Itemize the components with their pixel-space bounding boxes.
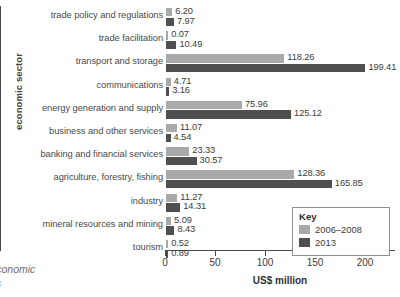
figure-caption-line-1: r economic: [0, 262, 144, 276]
bar-group: 118.26199.41: [166, 54, 400, 74]
bar-series-2013: [166, 64, 365, 72]
category-label: tourism: [133, 242, 163, 252]
bar-group: 23.3330.57: [166, 147, 400, 167]
bar-series-2006-2008: [166, 194, 177, 202]
x-axis-tick: [215, 251, 216, 256]
bar-row: business and other services11.074.54: [0, 122, 400, 145]
bar-value-label: 0.52: [171, 238, 189, 248]
category-label: mineral resources and mining: [42, 219, 163, 229]
bar-row: agriculture, forestry, fishing128.36165.…: [0, 168, 400, 191]
bar-value-label: 6.20: [175, 6, 193, 16]
legend-label-2006-2008: 2006–2008: [315, 224, 362, 235]
bar-series-2006-2008: [166, 147, 189, 155]
bar-value-label: 11.27: [180, 192, 202, 202]
bar-value-label: 8.43: [177, 224, 195, 234]
bar-value-label: 199.41: [368, 62, 396, 72]
bar-group: 0.0710.49: [166, 31, 400, 51]
bar-value-label: 0.89: [171, 248, 189, 258]
bar-value-label: 0.07: [171, 29, 189, 39]
bar-series-2006-2008: [166, 217, 171, 225]
bar-series-2013: [166, 87, 169, 95]
category-label: agriculture, forestry, fishing: [54, 172, 163, 182]
legend-item-2013: 2013: [299, 237, 384, 248]
figure-caption: r economic nds: [0, 262, 144, 290]
bar-value-label: 3.16: [172, 85, 190, 95]
bar-series-2006-2008: [166, 8, 172, 16]
bar-series-2006-2008: [166, 101, 242, 109]
bar-series-2013: [166, 226, 174, 234]
category-label: industry: [131, 196, 163, 206]
x-axis-tick-label: 200: [357, 257, 374, 268]
category-label: business and other services: [49, 126, 163, 136]
legend: Key 2006–2008 2013: [292, 207, 390, 256]
bar-series-2006-2008: [166, 78, 171, 86]
bar-value-label: 5.09: [174, 215, 192, 225]
legend-label-2013: 2013: [315, 237, 336, 248]
bar-value-label: 10.49: [179, 39, 202, 49]
legend-item-2006-2008: 2006–2008: [299, 224, 384, 235]
bar-series-2006-2008: [166, 31, 168, 39]
bar-series-2013: [166, 134, 171, 142]
bar-row: trade policy and regulations6.207.97: [0, 6, 400, 29]
x-axis-tick: [265, 251, 266, 256]
bar-series-2013: [166, 157, 197, 165]
bar-value-label: 11.07: [180, 122, 202, 132]
bar-value-label: 118.26: [287, 52, 314, 62]
bar-row: trade facilitation0.0710.49: [0, 29, 400, 52]
category-label: trade policy and regulations: [51, 10, 163, 20]
bar-value-label: 125.12: [294, 108, 322, 118]
x-axis-tick-label: 0: [162, 257, 168, 268]
legend-swatch-2013: [299, 238, 310, 248]
bar-row: transport and storage118.26199.41: [0, 52, 400, 75]
bar-value-label: 23.33: [192, 145, 215, 155]
category-label: energy generation and supply: [42, 103, 163, 113]
x-axis-tick-label: 150: [307, 257, 324, 268]
bar-group: 6.207.97: [166, 8, 400, 28]
bar-series-2013: [166, 203, 180, 211]
bar-series-2013: [166, 18, 174, 26]
category-label: transport and storage: [76, 56, 163, 66]
x-axis-tick-label: 100: [257, 257, 274, 268]
bar-series-2006-2008: [166, 54, 284, 62]
bar-value-label: 7.97: [177, 16, 195, 26]
legend-title: Key: [299, 211, 384, 222]
category-label: trade facilitation: [99, 33, 163, 43]
bar-value-label: 128.36: [297, 168, 325, 178]
bar-value-label: 4.54: [174, 132, 192, 142]
bar-group: 128.36165.85: [166, 170, 400, 190]
x-axis-title: US$ million: [165, 275, 395, 286]
bar-value-label: 30.57: [200, 155, 223, 165]
legend-swatch-2006-2008: [299, 225, 310, 235]
bar-group: 75.96125.12: [166, 100, 400, 120]
bar-row: communications4.713.16: [0, 76, 400, 99]
bar-series-2013: [166, 41, 176, 49]
bar-series-2013: [166, 180, 332, 188]
x-axis-tick-label: 50: [209, 257, 220, 268]
bar-row: banking and financial services23.3330.57: [0, 145, 400, 168]
bar-series-2006-2008: [166, 240, 168, 248]
figure-caption-line-2: nds: [0, 276, 144, 290]
category-label: banking and financial services: [40, 149, 163, 159]
bar-row: energy generation and supply75.96125.12: [0, 99, 400, 122]
x-axis-tick: [165, 251, 166, 256]
bar-value-label: 165.85: [335, 178, 363, 188]
bar-series-2013: [166, 110, 291, 118]
category-label: communications: [97, 80, 163, 90]
bar-group: 4.713.16: [166, 77, 400, 97]
bar-value-label: 14.31: [183, 201, 206, 211]
bar-value-label: 4.71: [174, 76, 192, 86]
bar-group: 11.074.54: [166, 124, 400, 144]
bar-value-label: 75.96: [245, 99, 268, 109]
bar-series-2006-2008: [166, 170, 294, 178]
